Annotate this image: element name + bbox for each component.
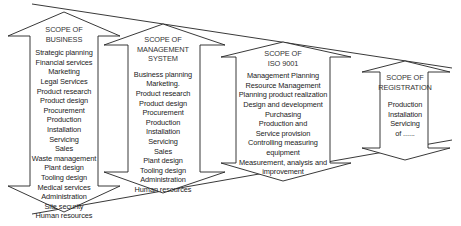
title-line: SCOPE OF [373,73,437,83]
list-item: Waste management [14,154,114,164]
list-item: Production [114,118,212,128]
list-item: of ...... [373,129,437,139]
list-item: Purchasing [228,110,338,120]
list-item: Production and [228,119,338,129]
title-line: SCOPE OF [14,25,114,35]
scope-title: SCOPE OF ISO 9001 [228,49,338,68]
list-item: Tooling design [14,173,114,183]
list-item: Installation [114,127,212,137]
list-item: Installation [373,110,437,120]
list-item: equipment [228,148,338,158]
list-item: Financial services [14,58,114,68]
list-item: Tooling design [114,166,212,176]
scope-business: SCOPE OF BUSINESS Strategic planning Fin… [14,25,114,221]
list-item: Controlling measuring [228,138,338,148]
list-item: Production [14,115,114,125]
list-item: Business planning [114,70,212,80]
list-item: Procurement [14,106,114,116]
list-item: Servicing [14,135,114,145]
scope-iso-9001: SCOPE OF ISO 9001 Management Planning Re… [228,49,338,177]
list-item: Plant design [114,156,212,166]
list-item: Resource Management [228,81,338,91]
title-line: MANAGEMENT [114,45,212,55]
list-item: Design and development [228,100,338,110]
scope-title: SCOPE OF REGISTRATION [373,73,437,92]
title-line: REGISTRATION [373,83,437,93]
list-item: Servicing [114,137,212,147]
list-item: Administration [114,175,212,185]
list-item: Measurement, analysis and [228,158,338,168]
title-line: SCOPE OF [114,35,212,45]
title-line: ISO 9001 [228,59,338,69]
list-item: Administration [14,192,114,202]
list-item: Medical services [14,183,114,193]
list-item: Legal Services [14,77,114,87]
list-item: Sales [14,144,114,154]
list-item: Human resources [114,185,212,195]
list-item: Installation [14,125,114,135]
list-item: Strategic planning [14,48,114,58]
list-item: Product design [114,99,212,109]
list-item: Marketing [14,67,114,77]
list-item: Product research [14,87,114,97]
list-item: Marketing. [114,79,212,89]
list-item: Management Planning [228,71,338,81]
list-item: Planning product realization [228,90,338,100]
list-item: improvement [228,167,338,177]
list-item: Service provision [228,129,338,139]
list-item: Human resources [14,211,114,221]
scope-title: SCOPE OF BUSINESS [14,25,114,44]
list-item: Procurement [114,108,212,118]
scope-management-system: SCOPE OF MANAGEMENT SYSTEM Business plan… [114,35,212,195]
list-item: Servicing [373,119,437,129]
scope-title: SCOPE OF MANAGEMENT SYSTEM [114,35,212,64]
list-item: Product research [114,89,212,99]
list-item: Plant design [14,163,114,173]
list-item: Sales [114,147,212,157]
title-line: SCOPE OF [228,49,338,59]
list-item: Product design [14,96,114,106]
scope-registration: SCOPE OF REGISTRATION Production Install… [373,73,437,139]
title-line: SYSTEM [114,54,212,64]
title-line: BUSINESS [14,35,114,45]
list-item: Production [373,100,437,110]
list-item: Site security [14,202,114,212]
